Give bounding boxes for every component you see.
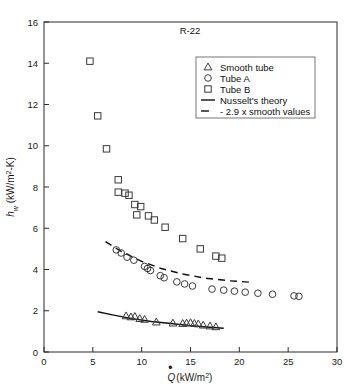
data-point-circle bbox=[181, 281, 188, 288]
curve-solid bbox=[98, 312, 224, 329]
y-tick-label: 16 bbox=[27, 17, 38, 28]
data-point-circle bbox=[157, 272, 164, 279]
x-tick-label: 25 bbox=[283, 356, 294, 367]
legend-label: - 2.9 x smooth values bbox=[220, 106, 311, 117]
figure-caption bbox=[0, 382, 349, 391]
x-tick-label: 0 bbox=[41, 356, 46, 367]
y-tick-label: 4 bbox=[33, 264, 38, 275]
y-tick-label: 0 bbox=[33, 347, 38, 358]
figure-container: 0510152025300246810121416Q• (kW/m2)hw (k… bbox=[0, 0, 349, 391]
data-point-circle bbox=[209, 286, 216, 293]
x-tick-label: 5 bbox=[90, 356, 95, 367]
legend-label: Smooth tube bbox=[220, 62, 274, 73]
data-point-circle bbox=[189, 283, 196, 290]
x-tick-label: 20 bbox=[234, 356, 245, 367]
plot-title: R-22 bbox=[180, 25, 201, 36]
y-axis-title: hw (kW/m2-K) bbox=[5, 157, 19, 217]
y-tick-label: 14 bbox=[27, 58, 38, 69]
data-point-circle bbox=[173, 279, 180, 286]
chart-canvas: 0510152025300246810121416Q• (kW/m2)hw (k… bbox=[0, 0, 349, 391]
data-point-square bbox=[95, 113, 101, 119]
data-point-square bbox=[122, 190, 128, 196]
data-point-square bbox=[126, 192, 132, 198]
x-tick-label: 15 bbox=[185, 356, 196, 367]
legend-label: Tube A bbox=[220, 73, 250, 84]
data-point-square bbox=[162, 224, 168, 230]
curve-dashed bbox=[106, 242, 253, 283]
legend-label: Nusselt's theory bbox=[220, 95, 288, 106]
data-point-square bbox=[115, 189, 121, 195]
x-tick-label: 30 bbox=[332, 356, 343, 367]
legend-label: Tube B bbox=[220, 84, 250, 95]
data-point-circle bbox=[231, 288, 238, 295]
data-point-square bbox=[103, 146, 109, 152]
data-point-circle bbox=[296, 293, 303, 300]
data-point-circle bbox=[220, 287, 227, 294]
y-tick-label: 8 bbox=[33, 182, 38, 193]
data-point-triangle bbox=[169, 319, 177, 326]
data-point-circle bbox=[242, 289, 249, 296]
y-tick-label: 6 bbox=[33, 223, 38, 234]
data-point-square bbox=[197, 246, 203, 252]
data-point-circle bbox=[269, 291, 276, 298]
data-point-square bbox=[115, 177, 121, 183]
y-tick-label: 12 bbox=[27, 99, 38, 110]
y-tick-label: 10 bbox=[27, 140, 38, 151]
data-point-circle bbox=[131, 257, 138, 264]
data-point-square bbox=[134, 212, 140, 218]
data-point-square bbox=[87, 58, 93, 64]
data-point-square bbox=[179, 235, 185, 241]
y-tick-label: 2 bbox=[33, 305, 38, 316]
data-point-circle bbox=[161, 274, 168, 281]
x-tick-label: 10 bbox=[136, 356, 147, 367]
data-point-circle bbox=[255, 290, 262, 297]
